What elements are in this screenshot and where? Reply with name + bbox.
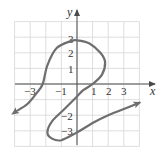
graph: x y −3 −1 1 2 3 3 2 1 −2 −3 (0, 0, 166, 156)
x-tick-label: −1 (55, 85, 67, 97)
x-axis-label: x (149, 84, 156, 98)
x-tick-label: 1 (91, 85, 97, 97)
y-tick-label: 2 (68, 47, 74, 59)
x-tick-label: 2 (106, 85, 112, 97)
y-tick-label: 1 (68, 63, 74, 75)
x-tick-label: 3 (121, 85, 127, 97)
y-axis-label: y (66, 5, 73, 19)
y-tick-label: 3 (68, 33, 74, 45)
